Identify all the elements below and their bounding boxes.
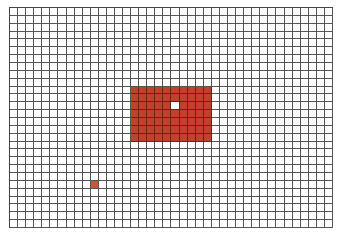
grid-cell[interactable] bbox=[10, 79, 18, 87]
grid-cell[interactable] bbox=[50, 197, 58, 205]
grid-cell[interactable] bbox=[180, 63, 188, 71]
grid-cell[interactable] bbox=[325, 157, 333, 165]
grid-cell[interactable] bbox=[228, 79, 236, 87]
grid-cell[interactable] bbox=[252, 55, 260, 63]
grid-cell[interactable] bbox=[228, 16, 236, 24]
filled-cell[interactable] bbox=[180, 102, 188, 110]
grid-cell[interactable] bbox=[42, 94, 50, 102]
grid-cell[interactable] bbox=[268, 134, 276, 142]
grid-cell[interactable] bbox=[34, 79, 42, 87]
grid-cell[interactable] bbox=[26, 220, 34, 228]
grid-cell[interactable] bbox=[252, 165, 260, 173]
grid-cell[interactable] bbox=[75, 212, 83, 220]
grid-cell[interactable] bbox=[180, 204, 188, 212]
grid-cell[interactable] bbox=[212, 118, 220, 126]
filled-cell[interactable] bbox=[171, 110, 179, 118]
grid-cell[interactable] bbox=[58, 87, 66, 95]
grid-cell[interactable] bbox=[123, 165, 131, 173]
grid-cell[interactable] bbox=[50, 134, 58, 142]
grid-cell[interactable] bbox=[301, 47, 309, 55]
grid-cell[interactable] bbox=[276, 79, 284, 87]
grid-cell[interactable] bbox=[58, 197, 66, 205]
grid-cell[interactable] bbox=[220, 32, 228, 40]
grid-cell[interactable] bbox=[147, 47, 155, 55]
grid-cell[interactable] bbox=[115, 204, 123, 212]
grid-cell[interactable] bbox=[18, 55, 26, 63]
filled-cell[interactable] bbox=[155, 110, 163, 118]
grid-cell[interactable] bbox=[115, 47, 123, 55]
grid-cell[interactable] bbox=[212, 16, 220, 24]
grid-cell[interactable] bbox=[276, 118, 284, 126]
grid-cell[interactable] bbox=[50, 110, 58, 118]
grid-cell[interactable] bbox=[285, 134, 293, 142]
grid-cell[interactable] bbox=[309, 102, 317, 110]
grid-cell[interactable] bbox=[147, 79, 155, 87]
grid-cell[interactable] bbox=[131, 79, 139, 87]
grid-cell[interactable] bbox=[155, 142, 163, 150]
grid-cell[interactable] bbox=[83, 24, 91, 32]
grid-cell[interactable] bbox=[75, 24, 83, 32]
highlighted-cell[interactable] bbox=[171, 102, 179, 110]
grid-cell[interactable] bbox=[301, 204, 309, 212]
grid-cell[interactable] bbox=[155, 165, 163, 173]
grid-cell[interactable] bbox=[34, 32, 42, 40]
grid-cell[interactable] bbox=[252, 39, 260, 47]
grid-cell[interactable] bbox=[244, 94, 252, 102]
grid-cell[interactable] bbox=[123, 149, 131, 157]
grid-cell[interactable] bbox=[180, 8, 188, 16]
grid-cell[interactable] bbox=[260, 173, 268, 181]
grid-cell[interactable] bbox=[220, 212, 228, 220]
grid-cell[interactable] bbox=[293, 181, 301, 189]
grid-cell[interactable] bbox=[42, 173, 50, 181]
grid-cell[interactable] bbox=[18, 157, 26, 165]
grid-cell[interactable] bbox=[18, 39, 26, 47]
grid-cell[interactable] bbox=[236, 149, 244, 157]
grid-cell[interactable] bbox=[252, 63, 260, 71]
grid-cell[interactable] bbox=[212, 212, 220, 220]
grid-cell[interactable] bbox=[91, 32, 99, 40]
grid-cell[interactable] bbox=[115, 71, 123, 79]
grid-cell[interactable] bbox=[58, 149, 66, 157]
grid-cell[interactable] bbox=[155, 71, 163, 79]
grid-cell[interactable] bbox=[317, 149, 325, 157]
grid-cell[interactable] bbox=[131, 142, 139, 150]
grid-cell[interactable] bbox=[228, 197, 236, 205]
grid-cell[interactable] bbox=[260, 149, 268, 157]
grid-cell[interactable] bbox=[276, 47, 284, 55]
grid-cell[interactable] bbox=[99, 63, 107, 71]
grid-cell[interactable] bbox=[10, 118, 18, 126]
grid-cell[interactable] bbox=[188, 142, 196, 150]
grid-cell[interactable] bbox=[293, 32, 301, 40]
filled-cell[interactable] bbox=[188, 87, 196, 95]
grid-cell[interactable] bbox=[309, 134, 317, 142]
grid-cell[interactable] bbox=[317, 181, 325, 189]
grid-cell[interactable] bbox=[10, 71, 18, 79]
grid-cell[interactable] bbox=[99, 39, 107, 47]
grid-cell[interactable] bbox=[26, 55, 34, 63]
grid-cell[interactable] bbox=[220, 94, 228, 102]
grid-cell[interactable] bbox=[26, 134, 34, 142]
grid-cell[interactable] bbox=[212, 173, 220, 181]
grid-cell[interactable] bbox=[99, 181, 107, 189]
grid-cell[interactable] bbox=[325, 94, 333, 102]
grid-cell[interactable] bbox=[252, 197, 260, 205]
grid-cell[interactable] bbox=[67, 142, 75, 150]
grid-cell[interactable] bbox=[309, 204, 317, 212]
grid-cell[interactable] bbox=[91, 149, 99, 157]
grid-cell[interactable] bbox=[171, 24, 179, 32]
grid-cell[interactable] bbox=[325, 32, 333, 40]
grid-cell[interactable] bbox=[34, 71, 42, 79]
grid-cell[interactable] bbox=[268, 197, 276, 205]
grid-cell[interactable] bbox=[325, 87, 333, 95]
filled-cell[interactable] bbox=[155, 126, 163, 134]
grid-cell[interactable] bbox=[244, 8, 252, 16]
grid-cell[interactable] bbox=[26, 24, 34, 32]
grid-cell[interactable] bbox=[268, 204, 276, 212]
grid-cell[interactable] bbox=[220, 165, 228, 173]
filled-cell[interactable] bbox=[188, 118, 196, 126]
grid-cell[interactable] bbox=[107, 32, 115, 40]
grid-cell[interactable] bbox=[83, 181, 91, 189]
grid-cell[interactable] bbox=[139, 71, 147, 79]
grid-cell[interactable] bbox=[115, 24, 123, 32]
filled-cell[interactable] bbox=[139, 134, 147, 142]
